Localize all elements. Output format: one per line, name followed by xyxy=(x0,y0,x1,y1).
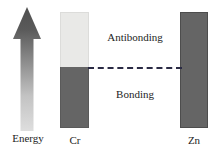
orbital-bar-zn xyxy=(180,12,208,128)
orbital-bar-cr-bonding-segment xyxy=(60,67,89,128)
bonding-antibonding-divider xyxy=(88,67,182,69)
antibonding-region-label: Antibonding xyxy=(88,31,182,43)
orbital-bar-zn-label: Zn xyxy=(176,134,211,146)
energy-level-diagram: Antibonding Bonding Energy Cr Zn xyxy=(0,0,211,154)
orbital-bar-cr xyxy=(60,12,89,128)
orbital-bar-cr-label: Cr xyxy=(56,134,94,146)
bonding-region-label: Bonding xyxy=(88,88,182,100)
orbital-bar-cr-antibonding-segment xyxy=(60,12,89,67)
energy-axis-label: Energy xyxy=(0,132,56,144)
energy-arrow-icon xyxy=(13,7,41,131)
